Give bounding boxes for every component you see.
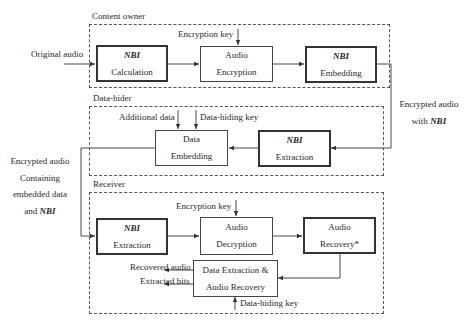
audio-recovery-box: Audio Recovery*	[303, 217, 376, 254]
receiver-title: Receiver	[93, 179, 125, 190]
encryption-key-label: Encryption key	[178, 29, 233, 40]
data-hiding-key-label: Data-hiding key	[200, 112, 258, 123]
nbi-embedding-title: NBI	[333, 48, 349, 65]
recovered-audio-label: Recovered audio	[130, 262, 191, 273]
hider-nbi-extraction-title: NBI	[286, 132, 302, 149]
encrypted-audio-containing-line4: and NBI	[2, 203, 78, 220]
audio-encryption-line2: Encryption	[217, 64, 257, 81]
nbi-calculation-box: NBI Calculation	[96, 45, 168, 82]
data-embedding-box: Data Embedding	[155, 130, 228, 166]
encrypted-audio-with-nbi-label: Encrypted audio with NBI	[389, 96, 469, 130]
audio-decryption-line1: Audio	[225, 219, 248, 236]
data-extraction-line1: Data Extraction &	[203, 262, 269, 279]
receiver-nbi-extraction-box: NBI Extraction	[96, 218, 168, 255]
encrypted-audio-containing-label: Encrypted audio Containing embedded data…	[2, 153, 78, 219]
audio-decryption-box: Audio Decryption	[200, 217, 273, 255]
data-embedding-line1: Data	[183, 131, 200, 148]
data-embedding-line2: Embedding	[171, 148, 213, 165]
nbi-text: NBI	[40, 206, 56, 216]
hider-nbi-extraction-subtitle: Extraction	[276, 149, 314, 166]
encrypted-audio-containing-line1: Encrypted audio	[2, 153, 78, 170]
receiver-nbi-extraction-subtitle: Extraction	[113, 237, 151, 254]
encrypted-audio-with-nbi-line1: Encrypted audio	[389, 96, 469, 113]
audio-recovery-line2: Recovery*	[320, 236, 359, 253]
nbi-embedding-box: NBI Embedding	[305, 46, 377, 83]
original-audio-label: Original audio	[31, 49, 83, 60]
encrypted-audio-with-nbi-line2: with NBI	[389, 113, 469, 130]
data-extraction-audio-recovery-box: Data Extraction & Audio Recovery	[193, 260, 278, 297]
hider-nbi-extraction-box: NBI Extraction	[258, 130, 331, 167]
nbi-calculation-subtitle: Calculation	[111, 64, 153, 81]
encrypted-audio-containing-line2: Containing	[2, 170, 78, 187]
receiver-data-hiding-key-label: Data-hiding key	[240, 298, 298, 309]
and-text: and	[24, 206, 39, 216]
audio-encryption-line1: Audio	[225, 47, 248, 64]
additional-data-label: Additional data	[119, 112, 175, 123]
audio-decryption-line2: Decryption	[216, 236, 257, 253]
extracted-bits-label: Extracted bits	[140, 276, 190, 287]
with-text: with	[412, 116, 430, 126]
nbi-calculation-title: NBI	[124, 47, 140, 64]
data-hider-title: Data-hider	[93, 93, 131, 104]
audio-recovery-line1: Audio	[328, 219, 351, 236]
nbi-embedding-subtitle: Embedding	[320, 65, 362, 82]
receiver-encryption-key-label: Encryption key	[176, 201, 231, 212]
content-owner-title: Content owner	[92, 11, 145, 22]
data-extraction-line2: Audio Recovery	[206, 279, 265, 296]
receiver-nbi-extraction-title: NBI	[124, 220, 140, 237]
audio-encryption-box: Audio Encryption	[200, 46, 273, 82]
nbi-text: NBI	[430, 116, 446, 126]
encrypted-audio-containing-line3: embedded data	[2, 186, 78, 203]
